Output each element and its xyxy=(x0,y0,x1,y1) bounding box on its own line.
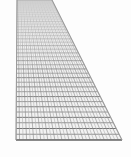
image-canvas xyxy=(0,0,131,157)
perspective-haze xyxy=(0,0,131,70)
wire-mesh-screen xyxy=(0,0,131,157)
